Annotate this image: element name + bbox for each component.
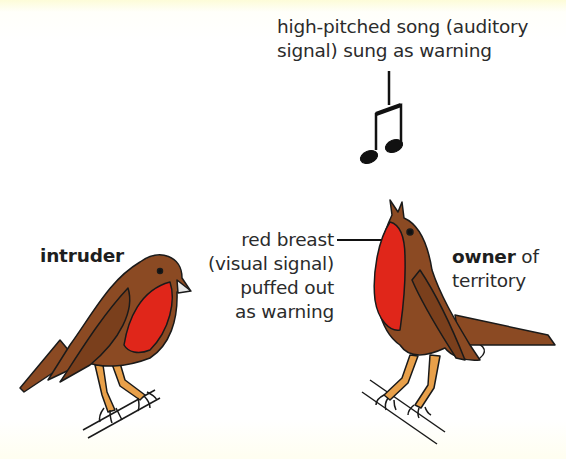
illustration: [0, 0, 566, 459]
music-note-icon: [358, 71, 404, 166]
intruder-bird-icon: [20, 255, 191, 438]
diagram-canvas: high-pitched song (auditory signal) sung…: [0, 0, 566, 459]
owner-bird-icon: [362, 200, 555, 444]
